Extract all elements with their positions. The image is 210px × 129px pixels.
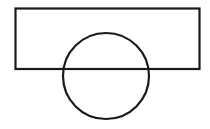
rectangle-shape xyxy=(16,9,200,70)
diagram-canvas xyxy=(0,0,210,129)
circle-shape xyxy=(63,33,149,119)
